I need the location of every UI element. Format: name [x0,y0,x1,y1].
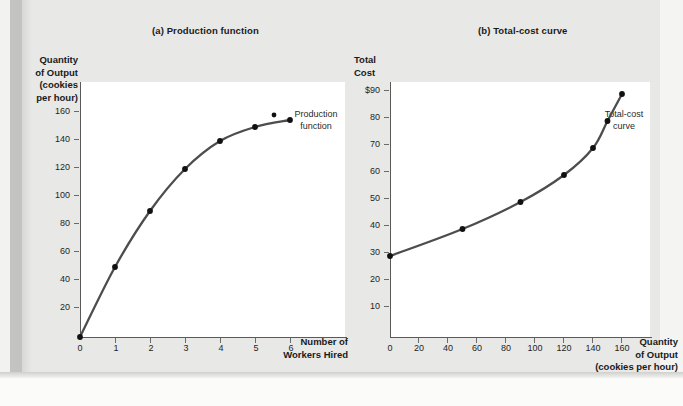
panel-a-ytick-160 [74,111,79,112]
panel-a-ytick-100 [74,195,79,196]
panel-b-ylabel-70: 70 [340,139,380,149]
panel-b-ytick-60 [384,171,389,172]
panel-b-curve-label-line-1: Total-cost [588,108,660,120]
panel-b-y-axis [390,82,391,338]
panel-b-ylabel-60: 60 [340,166,380,176]
panel-b-y-axis-title: Total Cost [354,54,414,79]
panel-b-xlabel-0: 0 [377,343,403,353]
panel-a-ylabel-80: 80 [28,218,70,228]
panel-b-ylabel-30: 30 [340,247,380,257]
panel-a-x-axis-title-line-1: Number of [215,336,348,349]
panel-a-ylabel-140: 140 [28,134,70,144]
panel-b-ytick-70 [384,144,389,145]
panel-b-xlabel-60: 60 [464,343,490,353]
panel-b-x-axis-title-line-3: (cookies per hour) [520,361,678,374]
panel-a-ylabel-160: 160 [28,106,70,116]
panel-a-ylabel-100: 100 [28,190,70,200]
panel-a-ylabel-20: 20 [28,302,70,312]
panel-b-curve-label-line-2: curve [588,120,660,132]
panel-a-ytick-80 [74,223,79,224]
panel-b-ytick-20 [384,279,389,280]
panel-b-ytick-30 [384,252,389,253]
panel-b-xlabel-80: 80 [493,343,519,353]
panel-b-x-axis-title: Quantity of Output (cookies per hour) [520,336,678,374]
panel-b-ylabel-50: 50 [340,193,380,203]
panel-a-y-axis-title-line-1: Quantity [10,54,78,67]
panel-b-ylabel-40: 40 [340,220,380,230]
panel-b-ytick-80 [384,117,389,118]
panel-b-y-axis-title-line-1: Total [354,54,414,67]
panel-a-y-axis-title-line-4: per hour) [10,92,78,105]
panel-a-title: (a) Production function [152,25,259,36]
panel-a-xlabel-2: 2 [138,343,164,353]
panel-b-curve-label: Total-cost curve [588,108,660,132]
panel-b-ylabel-10: 10 [340,301,380,311]
figure-page: (a) Production function (b) Total-cost c… [0,0,683,406]
panel-a-y-axis [80,82,81,338]
panel-a-y-axis-title: Quantity of Output (cookies per hour) [10,54,78,104]
panel-b-title: (b) Total-cost curve [478,25,567,36]
page-bottom-margin [0,378,683,406]
panel-b-ytick-50 [384,198,389,199]
panel-a-x-axis-title-line-2: Workers Hired [215,349,348,362]
panel-a-xlabel-0: 0 [67,343,93,353]
panel-a-ytick-140 [74,139,79,140]
panel-b-ylabel-90: $90 [340,85,380,95]
panel-b-xlabel-40: 40 [435,343,461,353]
panel-b-x-axis-title-line-1: Quantity [520,336,678,349]
panel-b-ytick-40 [384,225,389,226]
panel-b-x-axis-title-line-2: of Output [520,349,678,362]
panel-a-ylabel-40: 40 [28,274,70,284]
panel-a-ylabel-120: 120 [28,162,70,172]
panel-a-x-axis-title: Number of Workers Hired [215,336,348,361]
panel-b-ylabel-20: 20 [340,274,380,284]
panel-a-ytick-20 [74,307,79,308]
panel-a-ytick-60 [74,251,79,252]
panel-b-ytick-90 [384,90,389,91]
panel-b-xlabel-20: 20 [406,343,432,353]
panel-a-ylabel-60: 60 [28,246,70,256]
panel-a-y-axis-title-line-2: of Output [10,67,78,80]
panel-b-y-axis-title-line-2: Cost [354,67,414,80]
panel-a-ytick-120 [74,167,79,168]
panel-b-ytick-10 [384,306,389,307]
panel-a-y-axis-title-line-3: (cookies [10,79,78,92]
panel-a-xlabel-1: 1 [103,343,129,353]
panel-b-ylabel-80: 80 [340,112,380,122]
page-outer-edge [0,0,10,378]
panel-a-xlabel-3: 3 [173,343,199,353]
panel-a-ytick-40 [74,279,79,280]
